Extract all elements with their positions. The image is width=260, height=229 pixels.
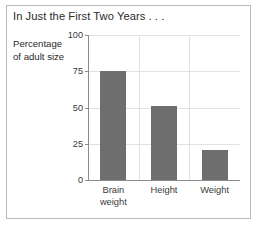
y-tick-label-25: 25 (73, 139, 83, 149)
bar-height (151, 106, 177, 180)
bar-weight (202, 150, 228, 180)
plot-area: 0255075100 BrainweightHeightWeight (88, 35, 240, 180)
y-tick-mark-100 (85, 35, 88, 36)
category-label-height: Height (139, 185, 190, 197)
y-tick-mark-75 (85, 71, 88, 72)
category-label-weight: Weight (189, 185, 240, 197)
y-tick-mark-25 (85, 144, 88, 145)
category-label-line1: Weight (189, 185, 240, 197)
y-axis-label-line2: of adult size (13, 51, 64, 64)
y-axis-line (88, 35, 89, 181)
y-axis-label: Percentage of adult size (13, 38, 64, 63)
category-label-line2: weight (88, 197, 139, 209)
x-axis-line (88, 180, 240, 181)
y-tick-label-100: 100 (68, 30, 83, 40)
gridline-100 (88, 35, 240, 36)
category-label-brain-weight: Brainweight (88, 185, 139, 208)
y-tick-mark-50 (85, 108, 88, 109)
y-tick-label-0: 0 (78, 175, 83, 185)
chart-figure: In Just the First Two Years . . . Percen… (0, 0, 260, 229)
y-tick-mark-0 (85, 180, 88, 181)
category-label-line1: Height (139, 185, 190, 197)
y-tick-label-50: 50 (73, 103, 83, 113)
chart-title: In Just the First Two Years . . . (13, 10, 164, 22)
y-tick-label-75: 75 (73, 66, 83, 76)
category-divider-1 (139, 35, 140, 180)
category-label-line1: Brain (88, 185, 139, 197)
bar-brain-weight (100, 71, 126, 180)
y-axis-label-line1: Percentage (13, 38, 64, 51)
category-divider-2 (189, 35, 190, 180)
